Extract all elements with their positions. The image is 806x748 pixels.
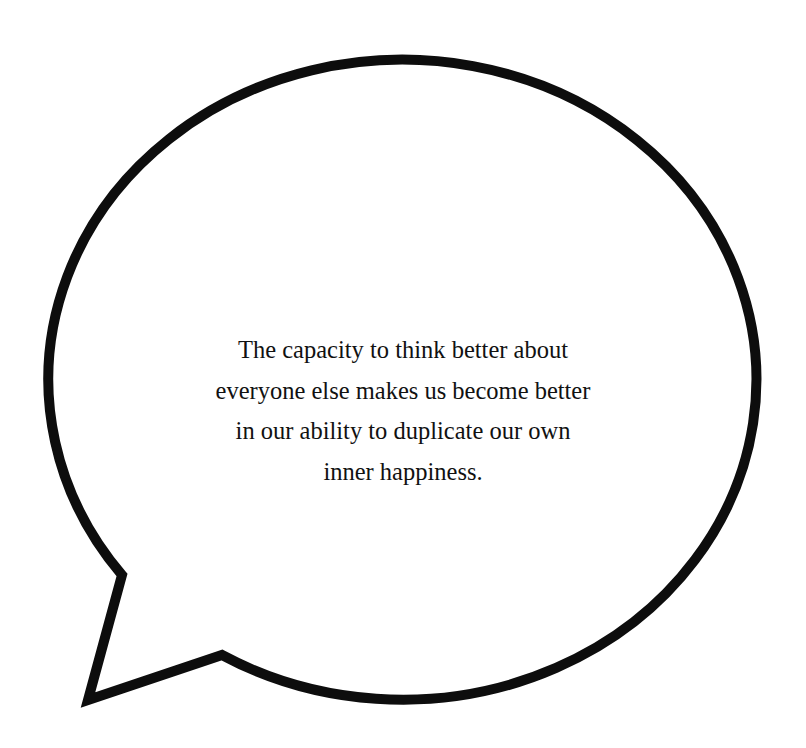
quote-line: everyone else makes us become better bbox=[160, 371, 646, 412]
quote-text: The capacity to think better about every… bbox=[160, 330, 646, 492]
quote-line: in our ability to duplicate our own bbox=[160, 411, 646, 452]
quote-line: inner happiness. bbox=[160, 452, 646, 493]
quote-line: The capacity to think better about bbox=[160, 330, 646, 371]
speech-bubble-canvas: The capacity to think better about every… bbox=[0, 0, 806, 748]
